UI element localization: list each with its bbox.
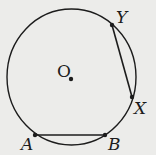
circle-diagram: O Y X A B <box>0 0 156 155</box>
label-b: B <box>107 134 121 154</box>
chord-yx <box>112 25 132 97</box>
label-o: O <box>57 61 71 81</box>
point-b <box>103 133 107 137</box>
label-y: Y <box>116 7 129 27</box>
point-a <box>33 133 37 137</box>
label-x: X <box>132 98 147 118</box>
point-y <box>110 23 114 27</box>
label-a: A <box>19 134 33 154</box>
